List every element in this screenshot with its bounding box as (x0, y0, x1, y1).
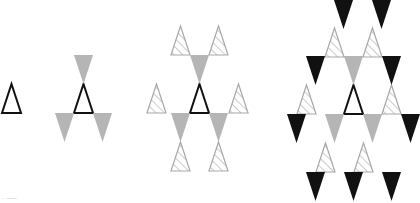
hatched-triangle-up-icon (209, 142, 228, 171)
hatched-triangle-up-icon (229, 84, 248, 113)
hatched-triangle-up-icon (171, 26, 190, 55)
outline-triangle-up-icon (74, 84, 93, 113)
triangle-growth-diagram (0, 0, 420, 203)
black-triangle-down-icon (306, 56, 325, 85)
stage-1-group (2, 84, 21, 113)
gray-triangle-down-icon (344, 56, 363, 85)
hatched-triangle-up-icon (297, 85, 316, 114)
black-triangle-down-icon (344, 172, 363, 201)
hatched-triangle-up-icon (171, 142, 190, 171)
hatched-triangle-up-icon (354, 143, 373, 172)
black-triangle-down-icon (382, 172, 401, 201)
stage-2-group (55, 55, 112, 142)
black-triangle-down-icon (334, 0, 353, 29)
black-triangle-down-icon (306, 172, 325, 201)
corner-label: ·· —— (2, 195, 17, 201)
hatched-triangle-up-icon (325, 28, 344, 57)
hatched-triangle-up-icon (209, 26, 228, 55)
black-triangle-down-icon (372, 0, 391, 29)
gray-triangle-down-icon (171, 113, 190, 142)
hatched-triangle-up-icon (316, 143, 335, 172)
gray-triangle-down-icon (190, 55, 209, 84)
outline-triangle-up-icon (2, 84, 21, 113)
gray-triangle-down-icon (363, 114, 382, 143)
gray-triangle-down-icon (74, 55, 93, 84)
black-triangle-down-icon (401, 114, 420, 143)
hatched-triangle-up-icon (382, 85, 401, 114)
hatched-triangle-up-icon (363, 28, 382, 57)
gray-triangle-down-icon (93, 113, 112, 142)
outline-triangle-up-icon (344, 85, 363, 114)
stage-3-group (147, 26, 248, 171)
black-triangle-down-icon (287, 114, 306, 143)
gray-triangle-down-icon (55, 113, 74, 142)
gray-triangle-down-icon (209, 113, 228, 142)
outline-triangle-up-icon (190, 84, 209, 113)
black-triangle-down-icon (382, 56, 401, 85)
stage-4-group (287, 0, 420, 201)
hatched-triangle-up-icon (147, 84, 166, 113)
gray-triangle-down-icon (325, 114, 344, 143)
